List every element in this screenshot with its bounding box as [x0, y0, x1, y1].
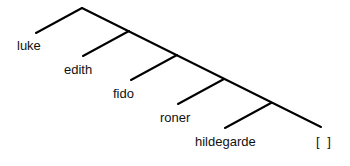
leaf-label-edith: edith — [64, 62, 92, 77]
tree-edges — [0, 0, 350, 166]
edge-luke — [36, 8, 82, 33]
edge-roner — [178, 79, 224, 104]
leaf-label-empty-list: [ ] — [316, 134, 331, 149]
leaf-label-fido: fido — [113, 86, 134, 101]
spine-edge — [82, 8, 321, 127]
edge-hildegarde — [225, 103, 271, 128]
leaf-label-luke: luke — [17, 38, 41, 53]
edge-edith — [83, 31, 129, 56]
leaf-label-roner: roner — [160, 110, 190, 125]
edge-fido — [131, 55, 177, 80]
leaf-label-hildegarde: hildegarde — [195, 134, 256, 149]
